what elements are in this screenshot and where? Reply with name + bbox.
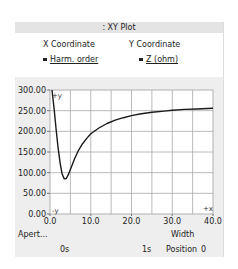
series-marker-icon [43, 58, 47, 61]
x-coordinate-header: X Coordinate [43, 40, 98, 50]
y-series-item[interactable]: Z (ohm) [129, 55, 180, 65]
y-tick-label: 200.00 [18, 127, 46, 136]
position-value: 0 [201, 245, 206, 255]
window-title: : XY Plot [15, 22, 223, 33]
y-tick-label: 50.00 [23, 189, 46, 198]
x-tick-label: 40.0 [204, 217, 222, 226]
y-tick-label: 250.00 [18, 107, 46, 116]
legend-y-column: Y Coordinate Z (ohm) [129, 40, 180, 65]
width-label: Width [171, 230, 194, 240]
time-end: 1s [142, 245, 151, 255]
x-axis-marker: +x [203, 205, 213, 213]
position-label: Position [166, 245, 197, 255]
x-coordinate-link[interactable]: Harm. order [50, 55, 98, 64]
x-tick-label: 10.0 [82, 217, 100, 226]
x-tick-label: 30.0 [163, 217, 181, 226]
x-tick-label: 20.0 [123, 217, 141, 226]
time-start: 0s [60, 245, 69, 255]
legend-x-column: X Coordinate Harm. order [43, 40, 98, 65]
aperture-label: Apert... [18, 230, 48, 240]
y-tick-label: 150.00 [18, 148, 46, 157]
xy-plot-panel: : XY Plot X Coordinate Harm. order Y Coo… [15, 22, 224, 257]
x-series-item[interactable]: Harm. order [43, 55, 98, 65]
series-marker-icon [139, 58, 143, 61]
x-tick-label: 0.0 [44, 217, 57, 226]
y-bottom-marker: -y [52, 207, 59, 215]
y-coordinate-header: Y Coordinate [129, 40, 180, 50]
legend: X Coordinate Harm. order Y Coordinate Z … [15, 33, 223, 77]
y-tick-label: 300.00 [18, 86, 46, 95]
y-coordinate-link[interactable]: Z (ohm) [146, 55, 178, 64]
y-tick-label: 100.00 [18, 169, 46, 178]
